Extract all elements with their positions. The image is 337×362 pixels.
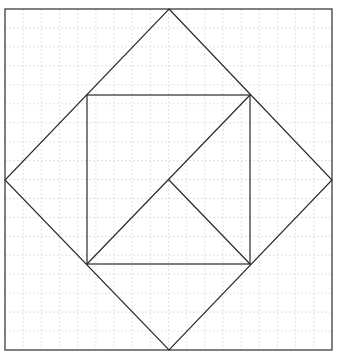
center-segment — [169, 180, 250, 264]
geometry-diagram — [0, 0, 337, 362]
